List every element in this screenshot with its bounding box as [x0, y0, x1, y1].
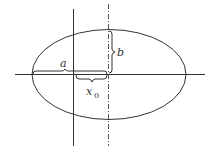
- label-x0: x: [86, 85, 93, 98]
- brace-b: [109, 31, 115, 73]
- brace-x0: [76, 75, 107, 82]
- ellipse-diagram: a b x 0: [0, 0, 214, 154]
- label-a: a: [60, 57, 67, 70]
- label-b: b: [117, 46, 124, 59]
- label-x0-subscript: 0: [94, 91, 99, 100]
- brace-a: [33, 69, 107, 74]
